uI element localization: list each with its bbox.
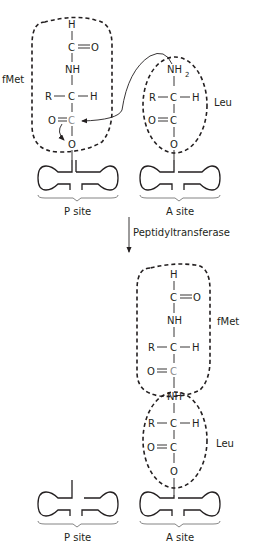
atom-c: C xyxy=(68,42,75,53)
atom-nh-peptide: NH xyxy=(167,391,182,402)
atom-o: O xyxy=(193,292,201,303)
trna-p-site-bottom: P site xyxy=(38,480,118,543)
p-site-label: P site xyxy=(64,206,91,217)
atom-nh: NH xyxy=(65,64,80,75)
atom-r: R xyxy=(148,342,155,353)
atom-o: O xyxy=(147,442,155,453)
dipeptidyl-trna-group: fMet Leu H C O NH R C H O C NH R C H O C… xyxy=(137,264,239,495)
atom-o-ester: O xyxy=(68,139,76,150)
a-site-label-bottom: A site xyxy=(166,532,194,543)
atom-c-alpha: C xyxy=(170,342,177,353)
atom-o: O xyxy=(91,42,99,53)
atom-o: O xyxy=(147,366,155,377)
atom-r: R xyxy=(149,92,156,103)
electron-arrow-icon xyxy=(59,124,64,140)
trna-a-site-top: A site xyxy=(140,160,220,217)
atom-h: H xyxy=(192,418,200,429)
atom-h: H xyxy=(68,19,76,30)
atom-nh2: NH xyxy=(167,64,182,75)
atom-c-alpha: C xyxy=(170,418,177,429)
atom-h: H xyxy=(170,269,178,280)
p-site-label-bottom: P site xyxy=(64,532,91,543)
atom-o: O xyxy=(48,115,56,126)
atom-r: R xyxy=(45,91,52,102)
fmet-label-bottom: fMet xyxy=(217,316,239,327)
atom-r: R xyxy=(148,418,155,429)
atom-c-alpha: C xyxy=(68,91,75,102)
subscript: 2 xyxy=(185,71,189,79)
atom-h: H xyxy=(192,342,200,353)
atom-o: O xyxy=(170,139,178,150)
atom-c-alpha: C xyxy=(170,92,177,103)
reaction-arrow-group: Peptidyltransferase xyxy=(129,217,230,252)
atom-c: C xyxy=(170,292,177,303)
a-site-label: A site xyxy=(166,206,194,217)
trna-a-site-bottom: A site xyxy=(140,492,220,543)
peptidyltransferase-label: Peptidyltransferase xyxy=(133,227,230,238)
a-site-leu-group: Leu NH 2 R C H O C O xyxy=(143,57,232,160)
p-site-fmet-group: fMet H C O NH R C H O C O xyxy=(2,17,112,160)
atom-c: C xyxy=(170,115,177,126)
atom-o: O xyxy=(170,466,178,477)
atom-h: H xyxy=(90,91,98,102)
atom-h: H xyxy=(192,92,200,103)
atom-nh: NH xyxy=(167,315,182,326)
leu-label: Leu xyxy=(214,97,232,108)
nucleophilic-attack-arrow-icon xyxy=(82,53,172,121)
atom-c: C xyxy=(170,442,177,453)
fmet-label: fMet xyxy=(2,74,24,85)
atom-c-carbonyl: C xyxy=(170,366,177,377)
diagram-canvas: fMet H C O NH R C H O C O Leu NH 2 R C H xyxy=(0,0,255,549)
trna-p-site-top: P site xyxy=(38,160,118,217)
leu-label-bottom: Leu xyxy=(216,438,234,449)
atom-o: O xyxy=(148,115,156,126)
atom-c-carbonyl: C xyxy=(68,115,75,126)
